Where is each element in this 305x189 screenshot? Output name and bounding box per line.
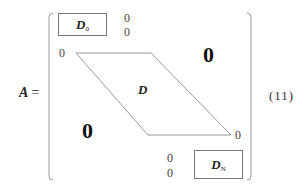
equation-number: (11) — [269, 88, 294, 104]
band-left-zero: 0 — [59, 46, 65, 61]
block-dn-label: DN — [211, 157, 225, 173]
lhs-symbol: A — [19, 85, 28, 100]
block-d0-label: D0 — [76, 17, 89, 33]
top-right-zero-2: 0 — [124, 25, 130, 40]
left-bracket — [49, 13, 53, 180]
block-dn: DN — [194, 150, 243, 179]
block-d0: D0 — [58, 13, 107, 36]
bottom-left-zero-2: 0 — [167, 166, 173, 181]
band-label: D — [138, 82, 147, 98]
lower-left-zero-block: 0 — [82, 118, 93, 144]
matrix-graphics — [0, 0, 305, 189]
lhs: A= — [19, 85, 39, 101]
bottom-left-zero-1: 0 — [167, 151, 173, 166]
top-right-zero-1: 0 — [124, 11, 130, 26]
upper-right-zero-block: 0 — [203, 42, 214, 68]
equals-sign: = — [31, 85, 39, 100]
band-right-zero: 0 — [235, 128, 241, 143]
right-bracket — [247, 13, 251, 180]
